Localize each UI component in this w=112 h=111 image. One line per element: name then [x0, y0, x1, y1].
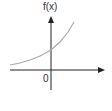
- y-axis-label: f(x): [43, 2, 57, 12]
- exponential-graph: [0, 0, 112, 111]
- origin-label: 0: [43, 74, 49, 84]
- function-curve: [10, 22, 74, 65]
- y-axis-arrow-icon: [48, 16, 54, 23]
- x-axis-arrow-icon: [98, 67, 105, 73]
